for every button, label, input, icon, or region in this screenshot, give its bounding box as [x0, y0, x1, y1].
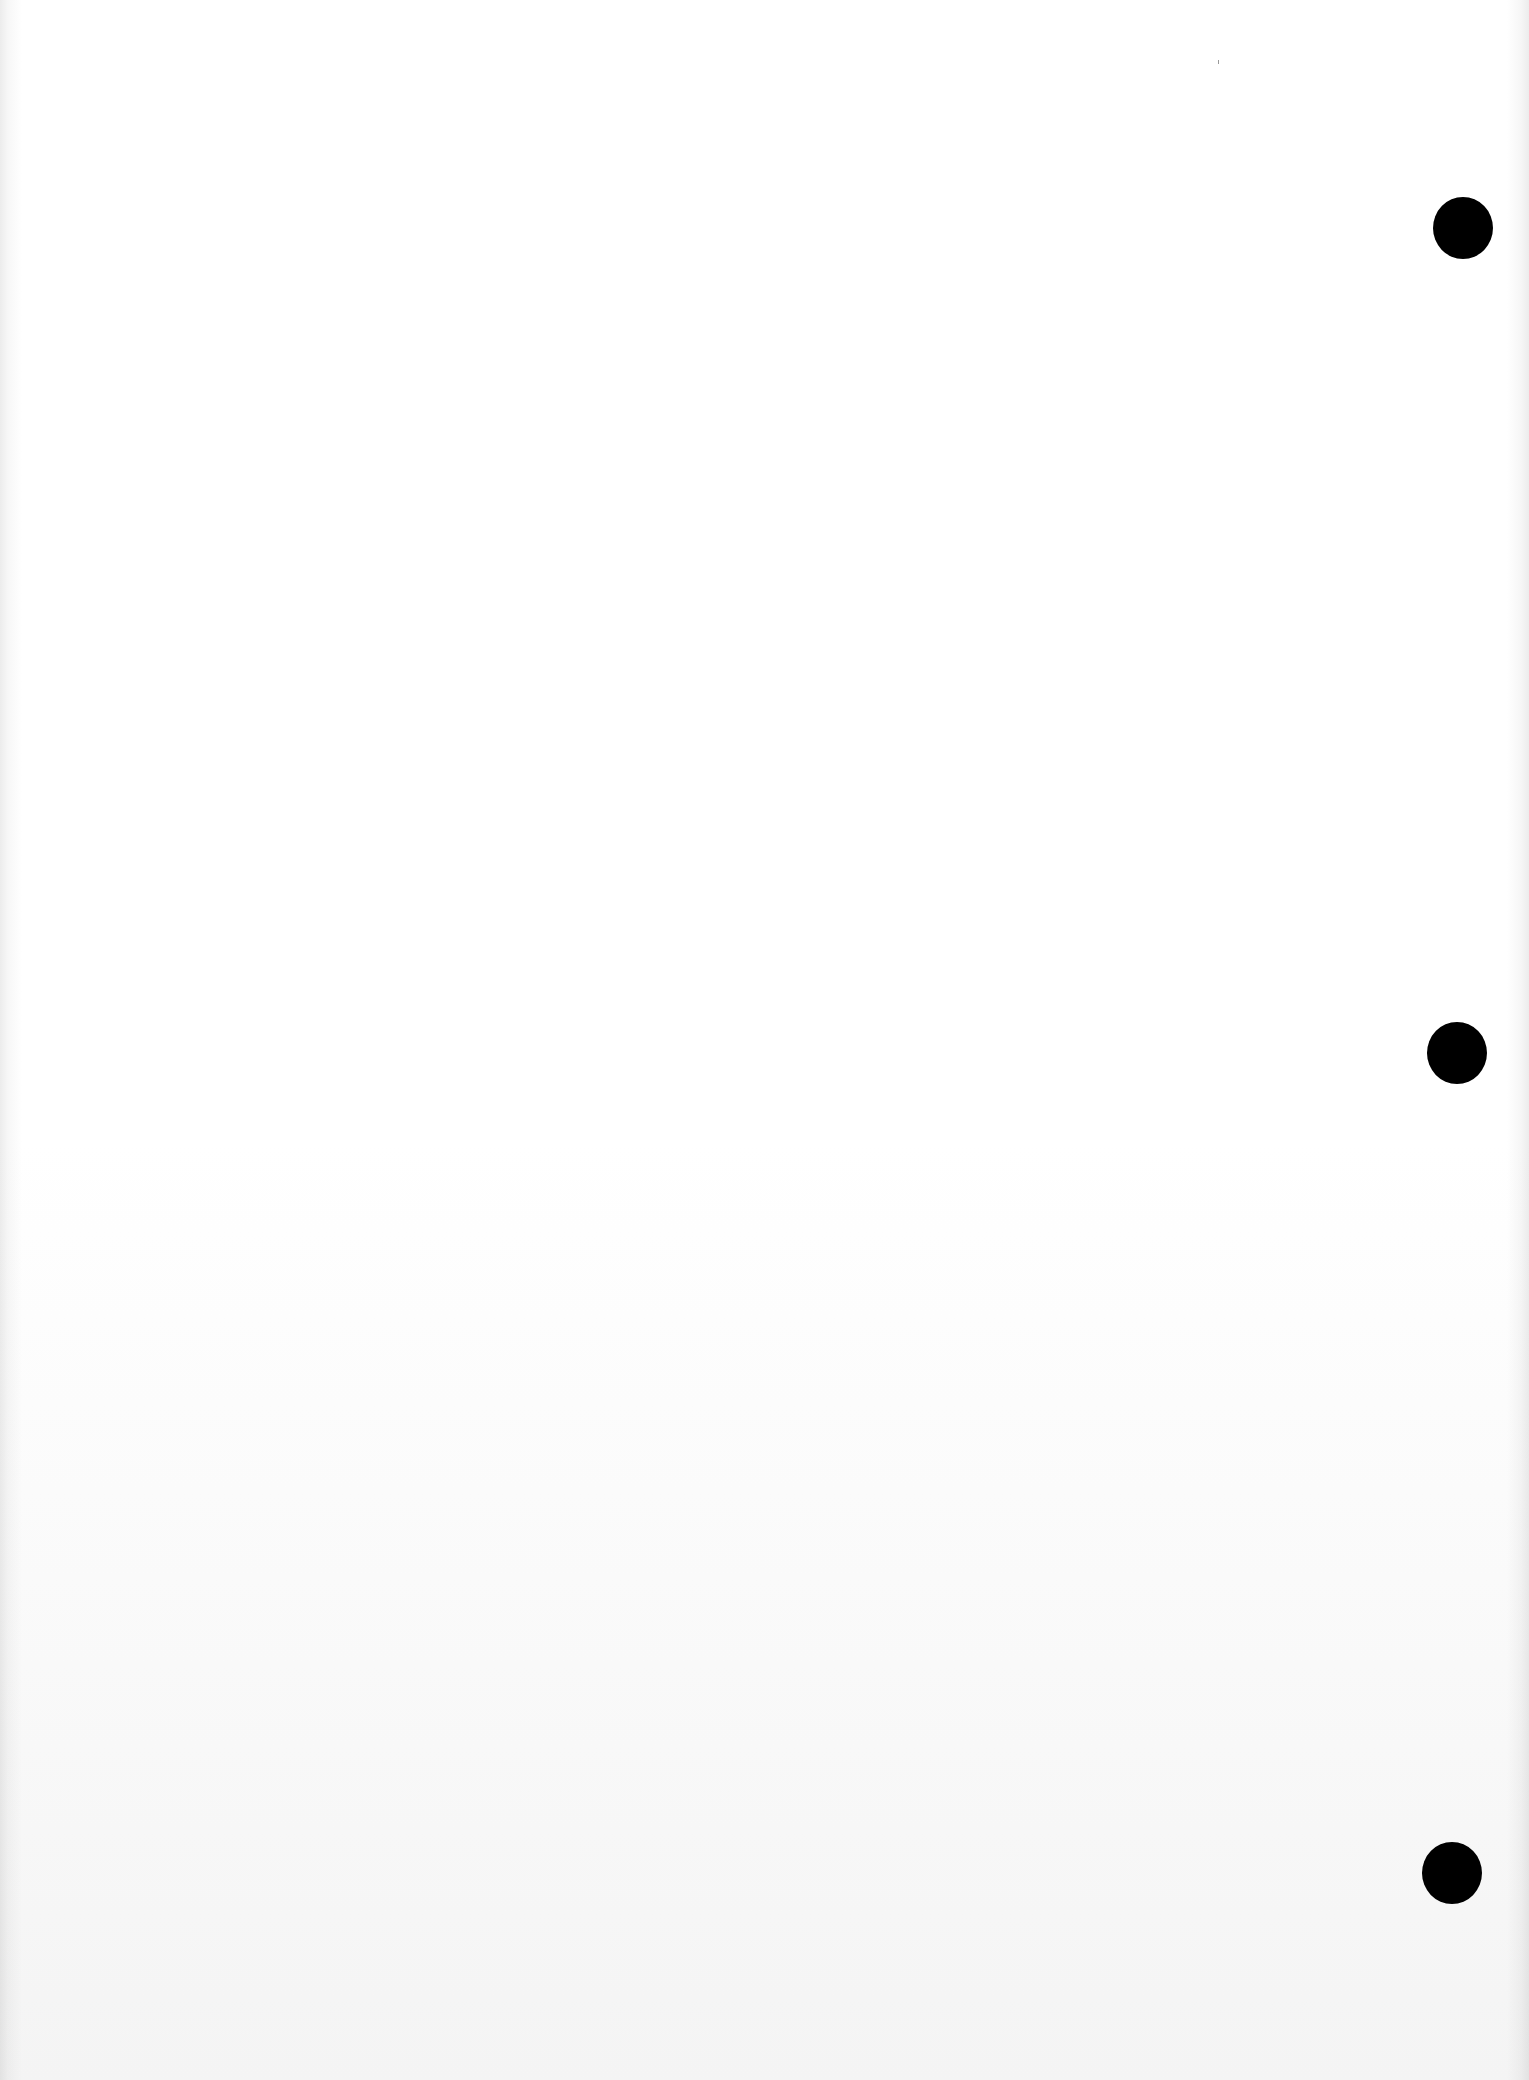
blank-document-page — [0, 0, 1529, 2080]
punch-hole-top — [1433, 197, 1493, 259]
punch-hole-middle — [1427, 1022, 1487, 1084]
scan-speck — [1218, 60, 1219, 64]
punch-hole-bottom — [1422, 1842, 1482, 1904]
